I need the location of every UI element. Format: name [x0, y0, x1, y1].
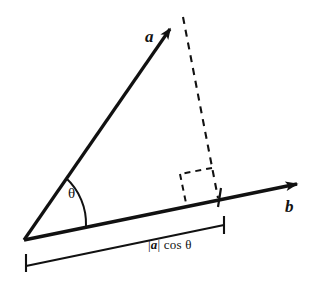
vector-b-arrow — [24, 184, 297, 240]
angle-theta-label: θ — [68, 186, 75, 201]
projection-length-label: |a| cos θ — [148, 238, 192, 251]
vector-a-label: a — [145, 28, 154, 45]
vector-projection-figure: a b θ |a| cos θ — [0, 0, 330, 281]
projection-foot-tick — [218, 188, 221, 207]
vector-b-label: b — [285, 198, 294, 215]
projection-vector-a: a — [151, 237, 158, 252]
projection-measure-bracket — [26, 216, 224, 272]
vector-a-arrow — [24, 29, 170, 240]
right-angle-marker — [180, 168, 212, 203]
projection-cos-theta: | cos θ — [158, 237, 192, 252]
